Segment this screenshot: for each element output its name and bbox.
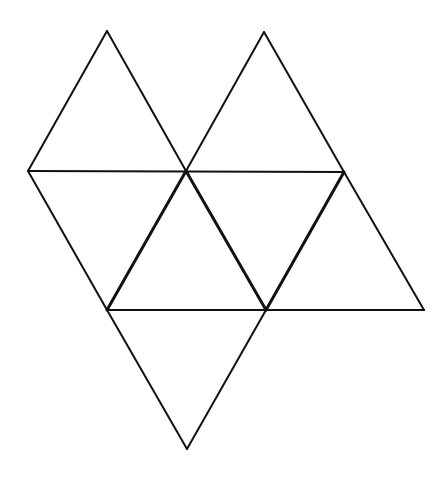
triangle-net-diagram xyxy=(0,0,445,480)
